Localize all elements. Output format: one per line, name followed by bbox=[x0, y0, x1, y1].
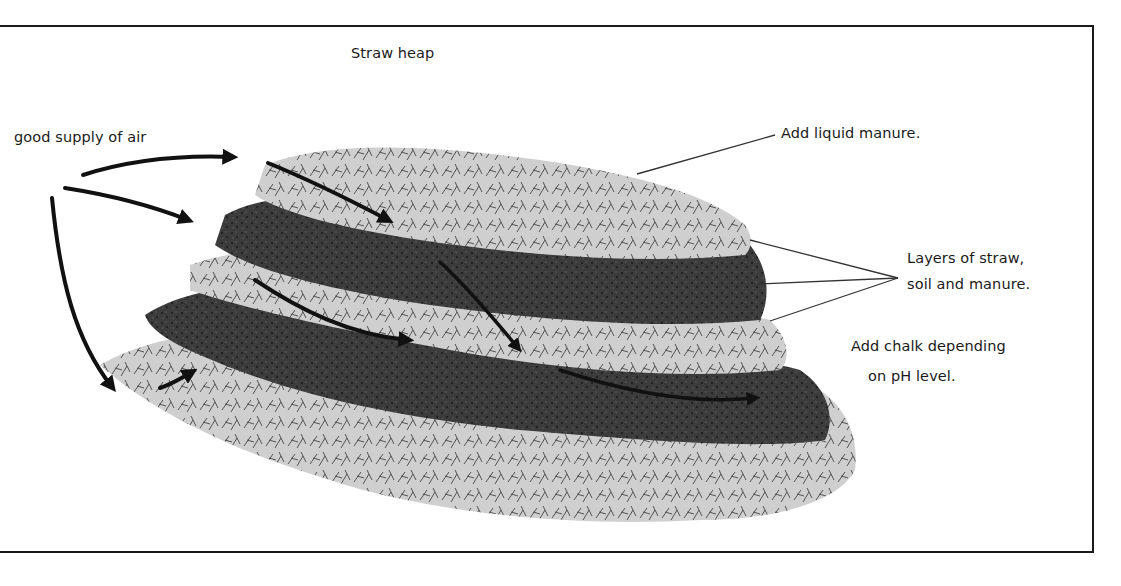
label-add-liquid-manure: Add liquid manure. bbox=[781, 124, 920, 143]
air-arrow-2 bbox=[65, 188, 188, 220]
leader-layer-1 bbox=[750, 240, 898, 278]
title-straw-heap: Straw heap bbox=[351, 44, 434, 63]
leader-layer-2 bbox=[758, 278, 898, 284]
air-arrow-1 bbox=[83, 157, 232, 175]
leader-layer-3 bbox=[770, 278, 898, 321]
leader-liquid-manure bbox=[637, 135, 775, 174]
label-chalk-line1: Add chalk depending bbox=[851, 337, 1006, 356]
label-good-supply-of-air: good supply of air bbox=[14, 128, 146, 147]
label-layers-line1: Layers of straw, bbox=[907, 249, 1024, 268]
air-arrow-3 bbox=[52, 198, 112, 387]
label-chalk-line2: on pH level. bbox=[868, 367, 956, 386]
label-layers-line2: soil and manure. bbox=[907, 275, 1030, 294]
